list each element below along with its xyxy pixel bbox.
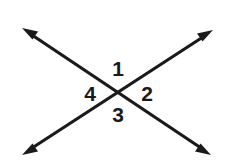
angle-diagram: lower-right --> upper-right --> 1 2 3 4 <box>0 0 234 166</box>
intersecting-lines-svg: lower-right --> upper-right --> <box>0 0 234 166</box>
angle-label-4: 4 <box>79 83 101 104</box>
angle-label-2: 2 <box>136 83 158 104</box>
angle-label-1: 1 <box>107 58 129 79</box>
angle-label-3: 3 <box>107 104 129 125</box>
